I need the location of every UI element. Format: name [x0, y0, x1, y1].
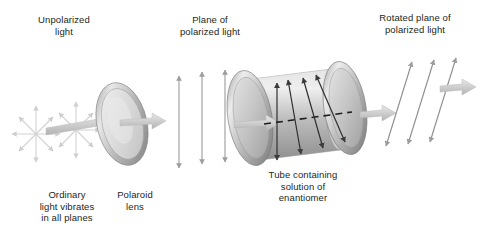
rotated-polarization-arrows [386, 58, 456, 146]
label-plane-of-polarized-light: Plane of polarized light [154, 14, 266, 37]
vertical-polarization-arrows [179, 70, 225, 168]
sample-tube [221, 58, 373, 169]
polarimetry-diagram: Unpolarized light Plane of polarized lig… [0, 0, 480, 237]
label-unpolarized-light: Unpolarized light [14, 14, 114, 37]
label-sample-tube: Tube containing solution of enantiomer [244, 169, 362, 204]
rotated-arrow [430, 58, 456, 142]
rotated-arrow [386, 62, 412, 146]
label-rotated-plane-of-polarized-light: Rotated plane of polarized light [354, 12, 476, 35]
label-polaroid-lens: Polaroid lens [94, 189, 176, 212]
rotated-arrow [408, 60, 434, 144]
